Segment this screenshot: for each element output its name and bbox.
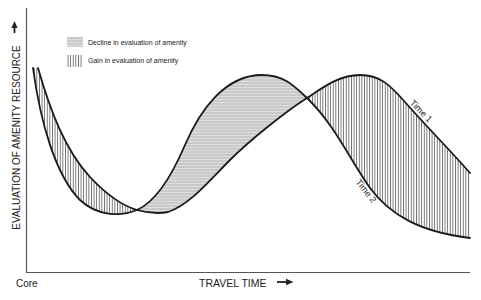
legend-label-decline: Decline in evaluation of amenity: [88, 39, 187, 47]
amenity-evaluation-figure: EVALUATION OF AMENITY RESOURCE Core TRAV…: [0, 0, 481, 300]
legend-item-decline: Decline in evaluation of amenity: [67, 37, 187, 47]
decline-region-middle: [137, 75, 307, 213]
y-axis-label: EVALUATION OF AMENITY RESOURCE: [11, 45, 22, 230]
chart-canvas: EVALUATION OF AMENITY RESOURCE Core TRAV…: [0, 0, 481, 300]
gain-region-right: [307, 75, 470, 238]
x-axis-label: TRAVEL TIME: [199, 277, 267, 289]
legend: Decline in evaluation of amenity Gain in…: [67, 37, 187, 67]
decline-swatch: [67, 37, 83, 47]
legend-item-gain: Gain in evaluation of amenity: [67, 55, 179, 67]
legend-label-gain: Gain in evaluation of amenity: [88, 57, 179, 65]
y-axis-arrow-icon: [11, 21, 17, 33]
gain-swatch: [67, 55, 83, 67]
x-origin-label: Core: [16, 278, 38, 289]
x-axis-arrow-icon: [277, 279, 294, 285]
